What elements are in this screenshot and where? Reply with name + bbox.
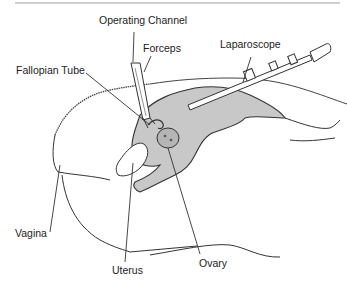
label-ovary: Ovary: [199, 257, 227, 269]
leader-operating-channel: [133, 32, 134, 62]
label-vagina: Vagina: [15, 227, 47, 239]
body-outline-bottom: [150, 245, 280, 257]
laparoscope-eyepiece: [310, 44, 331, 62]
label-forceps: Forceps: [143, 42, 181, 54]
leader-uterus: [125, 163, 133, 262]
body-outline-left: [53, 135, 110, 180]
ovary-shape: [157, 128, 179, 148]
body-outline-lower: [62, 175, 197, 252]
label-fallopian-tube: Fallopian Tube: [16, 64, 85, 76]
leader-forceps: [144, 56, 151, 72]
label-laparoscope: Laparoscope: [220, 38, 281, 50]
label-uterus: Uterus: [112, 264, 143, 276]
body-outline-right: [290, 138, 335, 141]
body-outline-right-upper: [285, 118, 340, 128]
laparoscopy-diagram: Operating Channel Forceps Laparoscope Fa…: [0, 0, 347, 288]
leader-vagina: [50, 165, 60, 232]
label-operating-channel: Operating Channel: [99, 14, 187, 26]
